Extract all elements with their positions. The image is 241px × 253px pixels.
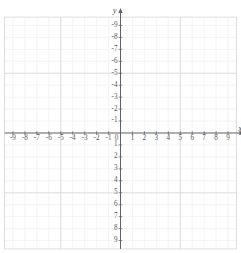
y-tick-label--5: -5 xyxy=(104,70,118,77)
y-tick-label--8: -8 xyxy=(104,34,118,41)
y-tick-label-7: 7 xyxy=(104,213,118,220)
axis-lines xyxy=(5,11,241,249)
y-tick-label-5: 5 xyxy=(104,189,118,196)
y-tick-label--2: -2 xyxy=(104,106,118,113)
x-tick-label-9: 9 xyxy=(221,135,235,142)
axis-arrowheads xyxy=(118,8,241,135)
coordinate-plane-graph xyxy=(0,0,241,253)
y-tick-label--4: -4 xyxy=(104,82,118,89)
y-tick-label-9: 9 xyxy=(104,237,118,244)
y-tick-label-8: 8 xyxy=(104,225,118,232)
x-axis-label: x xyxy=(238,125,241,133)
y-tick-label-2: 2 xyxy=(104,153,118,160)
y-tick-label--9: -9 xyxy=(104,22,118,29)
y-tick-label--7: -7 xyxy=(104,46,118,53)
y-tick-label-1: 1 xyxy=(104,141,118,148)
y-tick-label-6: 6 xyxy=(104,201,118,208)
y-axis-label: y xyxy=(113,7,116,15)
y-tick-label--3: -3 xyxy=(104,94,118,101)
y-tick-label-3: 3 xyxy=(104,165,118,172)
y-tick-label--1: -1 xyxy=(104,117,118,124)
y-tick-label--6: -6 xyxy=(104,58,118,65)
y-tick-label-4: 4 xyxy=(104,177,118,184)
